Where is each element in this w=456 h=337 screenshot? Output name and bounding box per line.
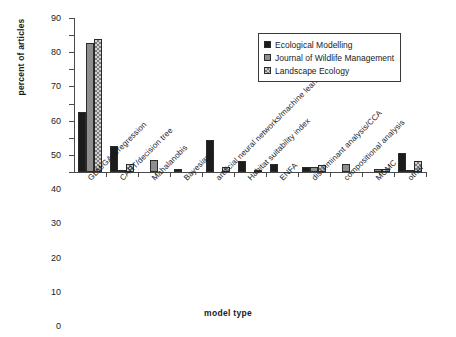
x-axis-tick	[106, 172, 107, 177]
x-axis-tick	[138, 172, 139, 177]
legend-item-ecological-modelling: Ecological Modelling	[264, 38, 394, 51]
x-axis-tick	[426, 172, 427, 177]
bar-chart: percent of articles 0102030405060708090 …	[0, 0, 456, 337]
x-axis-tick	[362, 172, 363, 177]
y-axis-tick-label: 30	[51, 219, 61, 228]
bar-group	[202, 18, 234, 172]
legend-swatch-icon	[264, 41, 271, 48]
bar	[78, 112, 86, 172]
y-axis-tick-label: 60	[51, 116, 61, 125]
y-axis-tick-label: 40	[51, 185, 61, 194]
x-axis-tick	[234, 172, 235, 177]
y-axis-tick-label: 10	[51, 287, 61, 296]
y-axis-tick-label: 70	[51, 82, 61, 91]
legend-item-landscape-ecology: Landscape Ecology	[264, 64, 394, 77]
y-axis-tick-label: 90	[51, 14, 61, 23]
legend-swatch-icon	[264, 54, 271, 61]
bar	[302, 167, 310, 172]
x-axis-title: model type	[0, 308, 456, 318]
x-axis-tick	[330, 172, 331, 177]
legend-item-journal-of-wildlife-management: Journal of Wildlife Management	[264, 51, 394, 64]
bar	[174, 169, 182, 172]
y-axis-tick-label: 50	[51, 150, 61, 159]
x-axis-tick	[394, 172, 395, 177]
legend-swatch-icon	[264, 67, 271, 74]
legend-label: Landscape Ecology	[275, 66, 349, 76]
x-axis-tick	[266, 172, 267, 177]
y-axis-tick-label: 0	[56, 322, 61, 331]
legend-label: Ecological Modelling	[275, 40, 353, 50]
chart-legend: Ecological Modelling Journal of Wildlife…	[258, 33, 401, 82]
x-axis-tick	[298, 172, 299, 177]
bar	[270, 164, 278, 172]
y-axis-title: percent of articles	[16, 0, 26, 122]
y-axis-tick-label: 20	[51, 253, 61, 262]
y-axis-tick-label: 80	[51, 48, 61, 57]
bar	[86, 43, 94, 172]
bar	[398, 153, 406, 172]
bar-group	[74, 18, 106, 172]
bar	[94, 39, 102, 172]
x-axis-tick	[202, 172, 203, 177]
legend-label: Journal of Wildlife Management	[275, 53, 394, 63]
x-axis-tick	[170, 172, 171, 177]
